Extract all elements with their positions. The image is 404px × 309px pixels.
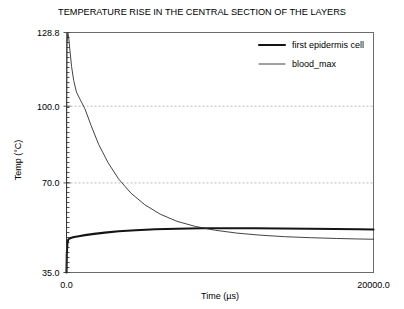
y-axis-tick-labels: 35.070.0100.0128.8	[37, 28, 60, 278]
temperature-rise-chart: TEMPERATURE RISE IN THE CENTRAL SECTION …	[0, 0, 404, 309]
legend-label: blood_max	[292, 59, 337, 69]
chart-title: TEMPERATURE RISE IN THE CENTRAL SECTION …	[58, 7, 346, 17]
series-line-first-epidermis-cell	[67, 228, 374, 272]
y-tick-label: 70.0	[42, 178, 60, 188]
chart-canvas: TEMPERATURE RISE IN THE CENTRAL SECTION …	[0, 0, 404, 309]
x-tick-label: 20000.0	[357, 280, 390, 290]
y-axis-title: Temp (°C)	[13, 140, 23, 181]
x-axis-tick-labels: 0.020000.0	[60, 280, 390, 290]
chart-legend: first epidermis cellblood_max	[259, 40, 364, 69]
y-tick-label: 35.0	[42, 268, 60, 278]
y-tick-label: 128.8	[37, 28, 60, 38]
legend-label: first epidermis cell	[292, 40, 364, 50]
x-axis-title: Time (µs)	[201, 291, 239, 301]
y-tick-label: 100.0	[37, 102, 60, 112]
x-tick-label: 0.0	[60, 280, 73, 290]
